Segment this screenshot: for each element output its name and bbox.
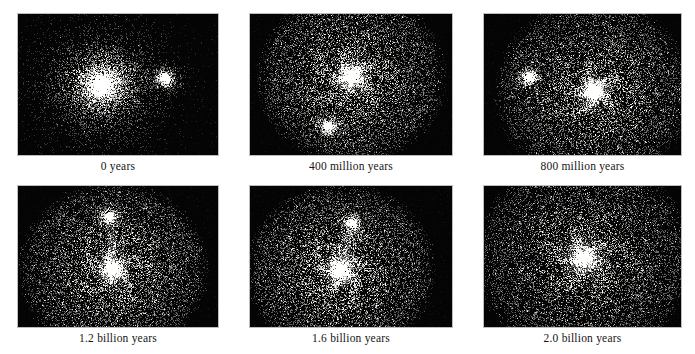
galaxy-simulation-image xyxy=(18,14,218,155)
galaxy-image-frame xyxy=(484,14,681,155)
panel-caption: 400 million years xyxy=(250,160,452,172)
galaxy-simulation-image xyxy=(484,14,681,155)
panel-caption: 800 million years xyxy=(484,160,681,172)
galaxy-panel xyxy=(484,14,681,155)
panel-caption: 0 years xyxy=(18,160,218,172)
panel-caption: 1.2 billion years xyxy=(18,332,218,344)
galaxy-simulation-image xyxy=(484,186,681,327)
galaxy-simulation-image xyxy=(250,14,452,155)
galaxy-merger-figure: 0 years400 million years800 million year… xyxy=(0,0,695,354)
galaxy-panel xyxy=(484,186,681,327)
galaxy-image-frame xyxy=(484,186,681,327)
galaxy-image-frame xyxy=(250,14,452,155)
galaxy-image-frame xyxy=(250,186,452,327)
galaxy-panel xyxy=(18,14,218,155)
galaxy-image-frame xyxy=(18,186,218,327)
panel-caption: 2.0 billion years xyxy=(484,332,681,344)
galaxy-panel xyxy=(18,186,218,327)
panel-caption: 1.6 billion years xyxy=(250,332,452,344)
galaxy-panel xyxy=(250,14,452,155)
galaxy-panel xyxy=(250,186,452,327)
galaxy-simulation-image xyxy=(250,186,452,327)
galaxy-image-frame xyxy=(18,14,218,155)
galaxy-simulation-image xyxy=(18,186,218,327)
